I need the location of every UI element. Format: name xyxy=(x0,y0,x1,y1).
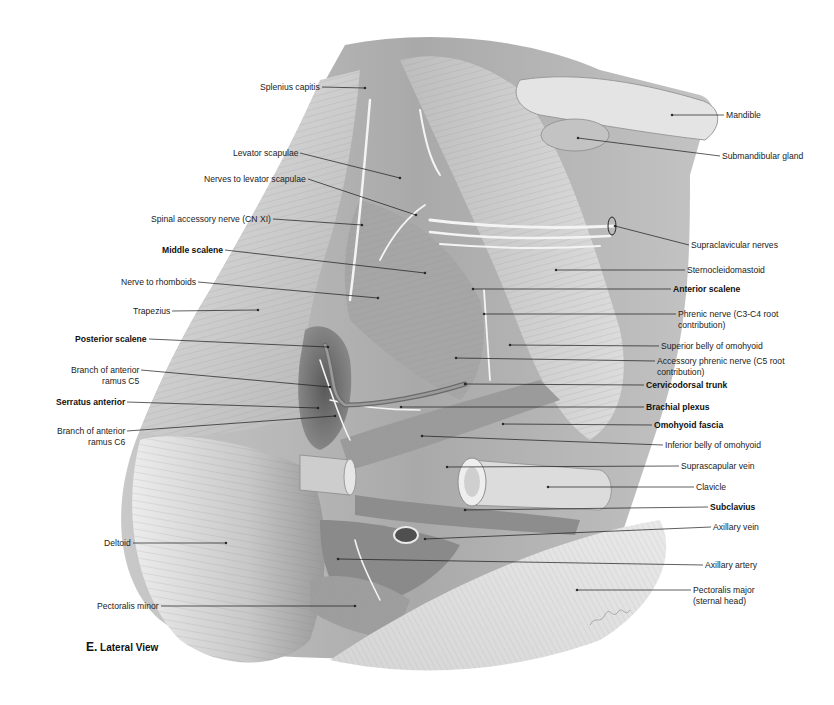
label-serratus-anterior: Serratus anterior xyxy=(56,397,125,408)
label-clavicle: Clavicle xyxy=(696,482,726,493)
label-phrenic-nerve: Phrenic nerve (C3-C4 rootcontribution) xyxy=(678,309,778,330)
axillary-vein xyxy=(394,527,418,543)
label-pectoralis-major: Pectoralis major(sternal head) xyxy=(693,585,755,606)
label-axillary-artery: Axillary artery xyxy=(705,560,757,571)
label-branch-anterior-ramus-c6: Branch of anteriorramus C6 xyxy=(57,426,125,447)
label-mandible: Mandible xyxy=(726,110,761,121)
label-subclavius: Subclavius xyxy=(710,502,755,513)
label-suprascapular-vein: Suprascapular vein xyxy=(681,461,755,472)
submandibular-gland xyxy=(541,119,609,151)
anatomy-figure: Splenius capitisLevator scapulaeNerves t… xyxy=(0,0,834,705)
label-levator-scapulae: Levator scapulae xyxy=(233,148,298,159)
label-middle-scalene: Middle scalene xyxy=(162,245,223,256)
label-sternocleidomastoid: Sternocleidomastoid xyxy=(687,265,765,276)
label-trapezius: Trapezius xyxy=(133,306,170,317)
label-cervicodorsal-trunk: Cervicodorsal trunk xyxy=(646,380,727,391)
label-axillary-vein: Axillary vein xyxy=(713,522,759,533)
label-branch-anterior-ramus-c5: Branch of anteriorramus C5 xyxy=(71,365,139,386)
label-anterior-scalene: Anterior scalene xyxy=(673,284,740,295)
label-omohyoid-fascia: Omohyoid fascia xyxy=(654,420,723,431)
label-posterior-scalene: Posterior scalene xyxy=(75,334,147,345)
label-supraclavicular-nerves: Supraclavicular nerves xyxy=(691,240,778,251)
label-pectoralis-minor: Pectoralis minor xyxy=(97,601,159,612)
label-deltoid: Deltoid xyxy=(104,538,131,549)
figure-caption: E. Lateral View xyxy=(86,640,158,654)
label-nerve-to-rhomboids: Nerve to rhomboids xyxy=(121,277,196,288)
caption-text: Lateral View xyxy=(97,642,158,653)
label-nerves-to-levator-scapulae: Nerves to levator scapulae xyxy=(204,174,306,185)
label-superior-belly-omohyoid: Superior belly of omohyoid xyxy=(661,341,763,352)
label-accessory-phrenic-nerve: Accessory phrenic nerve (C5 rootcontribu… xyxy=(657,356,785,377)
label-spinal-accessory-nerve: Spinal accessory nerve (CN XI) xyxy=(151,214,271,225)
label-splenius-capitis: Splenius capitis xyxy=(260,82,320,93)
label-submandibular-gland: Submandibular gland xyxy=(722,151,803,162)
label-inferior-belly-omohyoid: Inferior belly of omohyoid xyxy=(665,440,761,451)
label-brachial-plexus: Brachial plexus xyxy=(646,402,710,413)
caption-letter: E. xyxy=(86,640,97,654)
cut-clavicle-lateral xyxy=(300,455,350,495)
